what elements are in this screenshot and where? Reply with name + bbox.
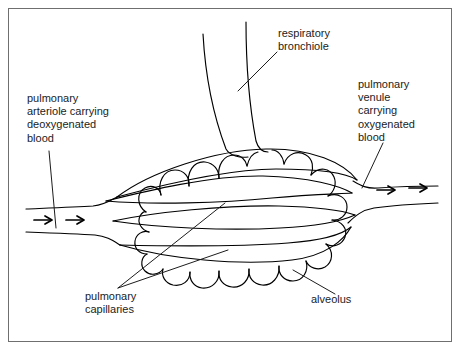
leader-line-capillaries-b [118,250,228,288]
diagram-page: pulmonary arteriole carrying deoxygenate… [0,0,462,352]
label-pulmonary-arteriole: pulmonary arteriole carrying deoxygenate… [27,92,109,145]
inflow-arrow-1 [34,216,52,224]
label-pulmonary-capillaries: pulmonary capillaries [85,290,136,316]
pulmonary-arteriole [26,197,120,245]
alveolus-illustration [0,0,462,352]
leader-line-alveolus [293,270,335,294]
pulmonary-capillaries [106,149,357,262]
outflow-arrow-2 [409,184,427,192]
respiratory-bronchiole [203,22,268,157]
label-pulmonary-venule: pulmonary venule carrying oxygenated blo… [358,78,415,144]
label-respiratory-bronchiole: respiratory bronchiole [278,27,330,53]
leader-line-arteriole [49,151,56,228]
inflow-arrow-2 [66,216,84,224]
leader-line-venule [362,143,383,188]
label-alveolus: alveolus [311,293,351,306]
leader-line-bronchiole [238,52,277,91]
